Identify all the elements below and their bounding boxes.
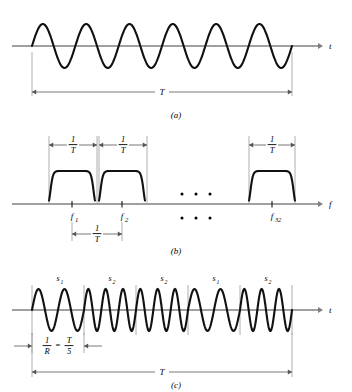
panel-a-time-waveform: t T (a) (0, 0, 352, 130)
total-duration-label: T (159, 367, 165, 377)
equals-sign: = (56, 340, 61, 350)
spacing-dimension: 1T (72, 222, 122, 244)
arrowhead (93, 142, 97, 147)
frequency-tick-label: f1 (71, 211, 78, 223)
panel-b-svg: 1T1T1T f1f2f32 1T f (b) (0, 126, 352, 262)
fraction-numerator: 1 (121, 134, 125, 144)
panel-c-caption: (c) (171, 380, 181, 390)
frequency-axis-label: f (329, 199, 333, 209)
ellipsis-dot (181, 217, 184, 220)
chip-label: s2 (160, 274, 167, 285)
panel-a-caption: (a) (171, 110, 182, 120)
frequency-tick-label: f2 (121, 211, 129, 223)
arrowhead (249, 142, 253, 147)
arrowhead (28, 343, 32, 348)
panel-c-svg: s1s2s2s1s2 1R=T5 t T (c) (0, 262, 352, 392)
ellipsis-dot (195, 193, 198, 196)
arrowhead (318, 307, 323, 313)
arrowhead (32, 89, 36, 94)
fraction: T5 (65, 335, 74, 356)
arrowhead (318, 43, 323, 49)
time-axis-label: t (329, 41, 332, 51)
svg-text:s: s (264, 274, 267, 283)
fraction-denominator: T (121, 145, 127, 155)
spectral-pulse (99, 171, 145, 201)
fraction-denominator: T (270, 145, 276, 155)
fraction-numerator: 1 (71, 134, 75, 144)
svg-text:s: s (56, 274, 59, 283)
fraction: 1R (43, 335, 52, 356)
arrowhead (288, 89, 292, 94)
svg-text:1: 1 (217, 279, 220, 285)
svg-text:s: s (212, 274, 215, 283)
fraction-numerator: T (67, 335, 73, 345)
svg-text:2: 2 (113, 279, 116, 285)
chip-label: s1 (212, 274, 219, 285)
duration-label: T (159, 87, 165, 97)
arrowhead (84, 343, 88, 348)
time-axis-label-c: t (329, 305, 332, 315)
ellipsis-dots (181, 193, 212, 220)
svg-text:2: 2 (165, 279, 168, 285)
fraction-denominator: T (95, 234, 101, 244)
arrowhead (99, 142, 103, 147)
spectral-pulse (249, 171, 295, 201)
chip-label: s2 (264, 274, 271, 285)
ellipsis-dot (181, 193, 184, 196)
arrowhead (32, 369, 36, 374)
chip-rate-dimension: 1R=T5 (14, 333, 102, 356)
frequency-tick-label: f32 (271, 211, 282, 223)
frequency-axis (12, 201, 323, 207)
arrowhead (288, 369, 292, 374)
arrowhead (72, 231, 76, 236)
fraction: 1T (69, 134, 78, 155)
spectral-pulse (49, 171, 95, 201)
panel-a-svg: t T (a) (0, 0, 352, 130)
fraction: 1T (268, 134, 277, 155)
arrowhead (318, 201, 323, 207)
panel-b-caption: (b) (171, 246, 182, 256)
spectral-pulses (49, 171, 295, 201)
fraction: 1T (93, 223, 102, 244)
ellipsis-dot (209, 193, 212, 196)
chip-label: s2 (108, 274, 115, 285)
fraction-denominator: T (71, 145, 77, 155)
svg-text:s: s (108, 274, 111, 283)
fraction: 1T (119, 134, 128, 155)
arrowhead (118, 231, 122, 236)
svg-text:2: 2 (269, 279, 272, 285)
figure-frequency-hopping: t T (a) 1T1T1T f1f2f32 1T f (b) s1s2s2s1… (0, 0, 352, 392)
arrowhead (49, 142, 53, 147)
fraction-denominator: 5 (67, 346, 71, 356)
pulse-guide-lines (49, 136, 295, 203)
arrowhead (143, 142, 147, 147)
panel-c-hopped-waveform: s1s2s2s1s2 1R=T5 t T (c) (0, 262, 352, 392)
arrowhead (291, 142, 295, 147)
fraction-numerator: 1 (270, 134, 274, 144)
svg-text:2: 2 (125, 216, 129, 223)
fraction-numerator: 1 (95, 223, 99, 233)
bandwidth-dimensions: 1T1T1T (49, 134, 295, 155)
chip-label: s1 (56, 274, 63, 285)
chip-labels: s1s2s2s1s2 (56, 274, 271, 285)
svg-text:s: s (160, 274, 163, 283)
ellipsis-dot (195, 217, 198, 220)
time-axis (12, 43, 323, 49)
fraction-denominator: R (43, 346, 50, 356)
panel-b-spectrum: 1T1T1T f1f2f32 1T f (b) (0, 126, 352, 262)
svg-text:32: 32 (274, 216, 282, 223)
fraction-numerator: 1 (45, 335, 49, 345)
ellipsis-dot (209, 217, 212, 220)
svg-text:1: 1 (75, 216, 78, 223)
svg-text:1: 1 (61, 279, 64, 285)
